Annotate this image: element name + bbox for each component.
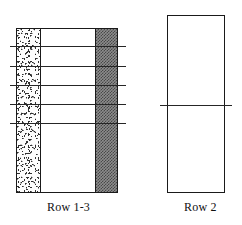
panel-caption-row-2: Row 2 [184,200,217,215]
dark-hatched-band [95,28,118,193]
cross-line [10,123,126,124]
panel-row-2 [167,15,225,193]
panel-row-1-3 [16,28,118,193]
cross-line [10,46,126,47]
cross-line [10,85,126,86]
speckled-band [16,28,41,193]
figure-canvas: Row 1-3 Row 2 [0,0,242,225]
cross-line [10,104,126,105]
cross-line [10,66,126,67]
plain-band [40,28,96,193]
panel-caption-row-1-3: Row 1-3 [47,200,90,215]
cross-line [160,105,232,106]
